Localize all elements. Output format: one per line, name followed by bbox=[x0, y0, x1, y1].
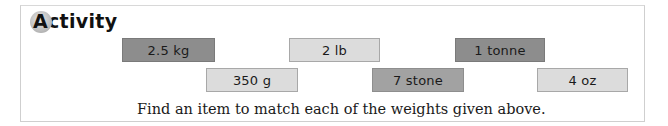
weight-tile-1-tonne: 1 tonne bbox=[455, 38, 545, 62]
instruction-text: Find an item to match each of the weight… bbox=[137, 99, 546, 119]
activity-heading: A ctivity bbox=[33, 8, 117, 34]
weight-tile-2-lb: 2 lb bbox=[289, 38, 380, 62]
weight-tile-7-stone: 7 stone bbox=[372, 68, 464, 92]
heading-initial: A bbox=[33, 8, 48, 34]
weight-tile-2-5-kg: 2.5 kg bbox=[122, 38, 215, 62]
weight-tile-350-g: 350 g bbox=[206, 68, 298, 92]
heading-rest: ctivity bbox=[48, 10, 117, 32]
weight-tile-4-oz: 4 oz bbox=[537, 68, 628, 92]
